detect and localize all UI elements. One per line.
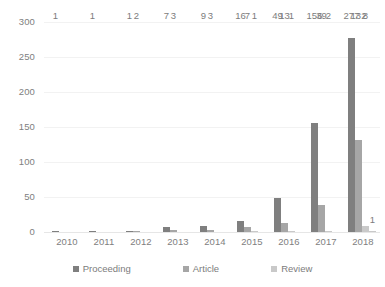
legend-label-article: Article [193, 263, 219, 274]
bar-slot-article: 3 [207, 22, 214, 232]
y-axis-tick-200: 200 [0, 87, 35, 97]
bar-slot-article: 2 [133, 22, 140, 232]
bar-article [318, 205, 325, 232]
x-axis-labels: 2010 2011 2012 2013 2014 2015 2016 2017 … [44, 236, 380, 252]
bar-slot-article: 3 [170, 22, 177, 232]
bar-slot-other: 1 [369, 22, 376, 232]
bar-slot-review: 2 [325, 22, 332, 232]
bar-label-review: 1 [289, 11, 294, 21]
bar-proceeding [126, 231, 133, 232]
bar-article [355, 140, 362, 232]
bar-slot-review: 8 [362, 22, 369, 232]
bar-label-review: 2 [326, 11, 331, 21]
bar-slot-review: 1 [251, 22, 258, 232]
bar-slot-article: 7 [244, 22, 251, 232]
x-axis-tick-2017: 2017 [306, 236, 346, 248]
bar-proceeding [52, 231, 59, 232]
bar-label-proceeding: 9 [201, 11, 206, 21]
bar-article [281, 223, 288, 232]
bar-slot-proceeding: 7 [163, 22, 170, 232]
bar-proceeding [200, 226, 207, 232]
legend-item-proceeding[interactable]: Proceeding [73, 263, 131, 274]
bar-proceeding [163, 227, 170, 232]
bar-article [170, 230, 177, 232]
x-axis-tick-2016: 2016 [269, 236, 309, 248]
y-axis-tick-50: 50 [0, 192, 35, 202]
legend-label-proceeding: Proceeding [83, 263, 131, 274]
x-axis-tick-2011: 2011 [84, 236, 124, 248]
bar-label-article: 3 [208, 11, 213, 21]
bar-proceeding [274, 198, 281, 232]
bar-label-article: 2 [134, 11, 139, 21]
plot-area: 300 250 200 150 100 50 0 1 1 [44, 22, 380, 232]
bar-slot-proceeding: 16 [237, 22, 244, 232]
y-axis-tick-300: 300 [0, 17, 35, 27]
bar-label-proceeding: 1 [90, 11, 95, 21]
legend-item-review[interactable]: Review [271, 263, 312, 274]
bar-group-2010: 1 [52, 22, 82, 232]
bar-slot-article: 39 [318, 22, 325, 232]
bar-group-2013: 7 3 [163, 22, 193, 232]
x-axis-tick-2010: 2010 [47, 236, 87, 248]
bar-review [251, 231, 258, 232]
bar-label-article: 3 [171, 11, 176, 21]
bar-label-review: 1 [252, 11, 257, 21]
bar-group-2017: 156 39 2 [311, 22, 341, 232]
legend-item-article[interactable]: Article [183, 263, 219, 274]
bar-slot-proceeding: 156 [311, 22, 318, 232]
bar-label-review: 8 [363, 11, 368, 21]
bar-slot-review: 1 [288, 22, 295, 232]
y-axis-tick-0: 0 [0, 227, 35, 237]
bar-review [325, 231, 332, 232]
legend-swatch-icon [183, 266, 189, 272]
bar-label-proceeding: 1 [127, 11, 132, 21]
bar-label-proceeding: 7 [164, 11, 169, 21]
bar-label-other: 1 [370, 215, 375, 225]
legend-swatch-icon [271, 266, 277, 272]
axis-zero-line [44, 232, 380, 233]
bar-proceeding [348, 38, 355, 232]
chart-legend: Proceeding Article Review [0, 263, 385, 274]
legend-label-review: Review [281, 263, 312, 274]
bar-article [133, 231, 140, 232]
bar-group-2011: 1 [89, 22, 119, 232]
bar-proceeding [311, 123, 318, 232]
bar-group-2014: 9 3 [200, 22, 230, 232]
bar-slot-proceeding: 1 [126, 22, 133, 232]
bar-article [244, 227, 251, 232]
bar-label-proceeding: 1 [53, 11, 58, 21]
legend-swatch-icon [73, 266, 79, 272]
x-axis-tick-2018: 2018 [343, 236, 383, 248]
y-axis-tick-250: 250 [0, 52, 35, 62]
bar-review [288, 231, 295, 232]
y-axis-tick-150: 150 [0, 122, 35, 132]
x-axis-tick-2012: 2012 [121, 236, 161, 248]
bar-proceeding [237, 221, 244, 232]
bar-other [369, 231, 376, 232]
bar-group-2016: 49 13 1 [274, 22, 304, 232]
bar-slot-proceeding: 1 [89, 22, 96, 232]
bar-label-article: 7 [245, 11, 250, 21]
bar-slot-article: 13 [281, 22, 288, 232]
bar-group-2012: 1 2 [126, 22, 156, 232]
y-axis-tick-100: 100 [0, 157, 35, 167]
bar-group-2018: 277 132 8 1 [348, 22, 378, 232]
bar-article [207, 230, 214, 232]
bar-slot-proceeding: 49 [274, 22, 281, 232]
bar-slot-proceeding: 1 [52, 22, 59, 232]
bar-proceeding [89, 231, 96, 232]
x-axis-tick-2013: 2013 [158, 236, 198, 248]
bar-group-2015: 16 7 1 [237, 22, 267, 232]
x-axis-tick-2015: 2015 [232, 236, 272, 248]
bar-slot-proceeding: 277 [348, 22, 355, 232]
bar-slot-proceeding: 9 [200, 22, 207, 232]
x-axis-tick-2014: 2014 [195, 236, 235, 248]
bar-chart: 300 250 200 150 100 50 0 1 1 [0, 0, 385, 287]
bar-slot-article: 132 [355, 22, 362, 232]
bar-review [362, 226, 369, 232]
